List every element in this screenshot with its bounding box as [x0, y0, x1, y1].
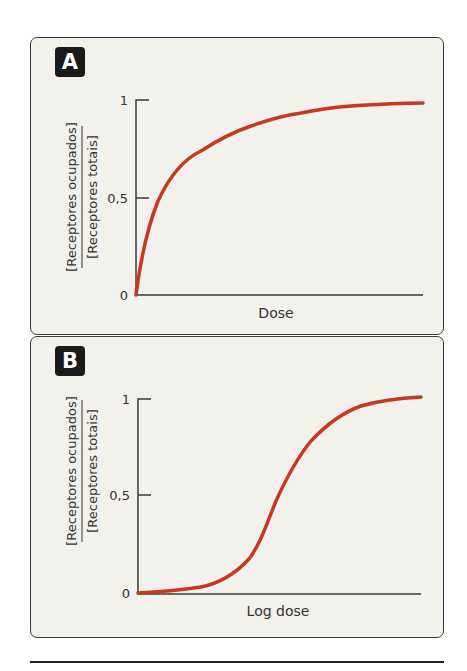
tick-label-0-a: 0	[120, 288, 128, 303]
curve-a	[136, 103, 423, 295]
panel-a: A [Receptores ocupados] [Receptores tota…	[30, 37, 444, 335]
y-label-bottom-b: [Receptores totais]	[85, 409, 100, 533]
tick-label-1-a: 1	[120, 93, 128, 108]
y-label-top-a: [Receptores ocupados]	[64, 122, 79, 272]
tick-label-0-b: 0	[122, 586, 130, 601]
y-label-bottom-a: [Receptores totais]	[85, 135, 100, 259]
tick-label-1-b: 1	[122, 392, 130, 407]
tick-label-05-a: 0,5	[107, 191, 128, 206]
axes-a	[136, 100, 423, 295]
tick-label-05-b: 0,5	[109, 488, 130, 503]
bottom-rule	[30, 661, 444, 663]
y-label-top-b: [Receptores ocupados]	[64, 396, 79, 546]
curve-b	[138, 397, 421, 593]
chart-a: [Receptores ocupados] [Receptores totais…	[31, 38, 445, 336]
x-label-a: Dose	[258, 305, 293, 321]
x-label-b: Log dose	[247, 603, 310, 619]
chart-b: [Receptores ocupados] [Receptores totais…	[31, 337, 445, 639]
panel-b: B [Receptores ocupados] [Receptores tota…	[30, 336, 444, 638]
